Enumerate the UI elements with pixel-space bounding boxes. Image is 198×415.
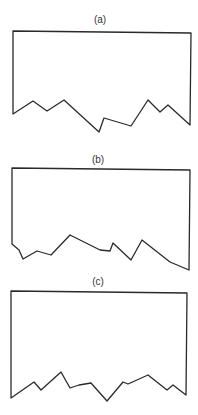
panel-a-profile: [13, 31, 191, 132]
rough-surface-diagram: (a) (b) (c): [0, 0, 198, 415]
panel-c-label: (c): [92, 276, 104, 287]
panel-b-label: (b): [92, 154, 104, 165]
panel-a-label: (a): [94, 14, 106, 25]
panel-c: (c): [11, 276, 187, 401]
panel-c-profile: [11, 291, 187, 401]
panel-b: (b): [12, 154, 190, 270]
panel-b-profile: [12, 168, 190, 270]
panel-a: (a): [13, 14, 191, 132]
